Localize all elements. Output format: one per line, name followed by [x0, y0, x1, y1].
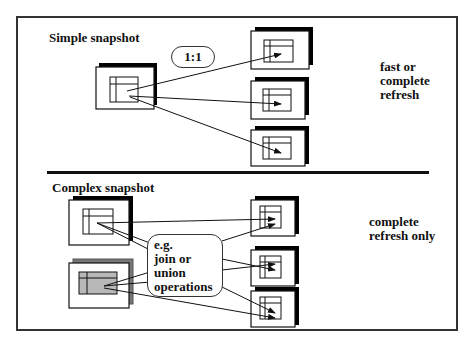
complex-target-table-icon — [251, 287, 299, 327]
operations-box: e.g. join or union operations — [147, 234, 223, 297]
simple-target-table-icon — [251, 77, 309, 119]
complex-target-table-icon — [251, 196, 299, 236]
diagram-graphics — [0, 0, 469, 342]
operations-line: operations — [154, 280, 222, 294]
operations-line: e.g. — [154, 238, 222, 252]
simple-target-table-icon — [251, 126, 309, 166]
complex-source-table-icon — [69, 196, 133, 245]
simple-target-table-icon — [251, 27, 313, 69]
operations-line: join or union — [154, 252, 222, 280]
complex-shaded-source-table-icon — [69, 259, 133, 308]
